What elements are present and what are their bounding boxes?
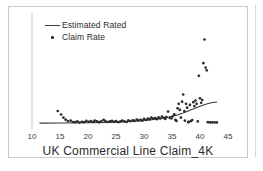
- claim-rate-point: [56, 110, 59, 113]
- claim-rate-point: [184, 119, 187, 122]
- claim-rate-point: [202, 62, 205, 65]
- claim-rate-point: [185, 103, 188, 106]
- claim-rate-point: [215, 121, 218, 124]
- legend-line-swatch: [45, 25, 60, 26]
- chart-title: UK Commercial Line Claim_4K: [8, 144, 248, 158]
- claim-rate-point: [64, 118, 67, 121]
- x-tick-30: 30: [134, 132, 154, 141]
- x-tick-20: 20: [78, 132, 98, 141]
- claim-rate-point: [165, 116, 168, 119]
- claim-rate-point: [198, 74, 201, 77]
- claim-rate-points: [56, 38, 218, 124]
- claim-rate-point: [181, 100, 184, 103]
- claim-rate-point: [167, 110, 170, 113]
- legend-label-claim-rate: Claim Rate: [62, 32, 105, 42]
- claim-rate-point: [186, 106, 189, 109]
- claim-rate-point: [182, 93, 185, 96]
- claim-rate-point: [195, 103, 198, 106]
- claim-rate-point: [171, 115, 174, 118]
- claim-rate-point: [60, 113, 63, 116]
- claim-rate-point: [204, 66, 207, 69]
- x-tick-10: 10: [22, 132, 42, 141]
- x-tick-15: 15: [50, 132, 70, 141]
- claim-rate-point: [180, 116, 183, 119]
- claim-rate-point: [189, 104, 192, 107]
- x-tick-40: 40: [190, 132, 210, 141]
- claim-rate-point: [193, 105, 196, 108]
- claim-rate-point: [201, 99, 204, 102]
- claim-rate-point: [192, 101, 195, 104]
- claim-rate-point: [196, 120, 199, 123]
- claim-rate-point: [80, 120, 83, 123]
- claim-rate-point: [177, 103, 180, 106]
- legend-label-estimated-rated: Estimated Rated: [62, 20, 126, 30]
- claim-rate-point: [199, 97, 202, 100]
- claim-rate-point: [108, 120, 111, 123]
- legend-dot-swatch: [51, 36, 54, 39]
- x-tick-25: 25: [106, 132, 126, 141]
- claim-rate-point: [205, 69, 208, 72]
- claim-rate-point: [191, 119, 194, 122]
- claim-rate-point: [173, 113, 176, 116]
- claim-rate-point: [200, 101, 203, 104]
- x-tick-35: 35: [162, 132, 182, 141]
- x-tick-45: 45: [218, 132, 238, 141]
- claim-rate-point: [175, 120, 178, 123]
- claim-rate-point: [178, 109, 181, 112]
- claim-rate-point: [194, 99, 197, 102]
- claim-rate-point: [203, 38, 206, 41]
- claim-rate-point: [183, 110, 186, 113]
- figure-root: Estimated Rated Claim Rate 1015202530354…: [0, 0, 263, 171]
- claim-rate-point: [62, 116, 65, 119]
- claim-rate-point: [106, 121, 109, 124]
- claim-rate-point: [66, 120, 69, 123]
- claim-rate-point: [176, 107, 179, 110]
